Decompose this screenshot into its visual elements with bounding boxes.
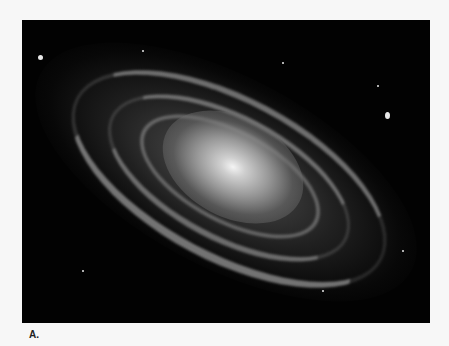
foreground-star — [282, 62, 284, 64]
foreground-star — [402, 250, 404, 252]
foreground-star — [82, 270, 84, 272]
foreground-star — [377, 85, 379, 87]
foreground-star — [142, 50, 144, 52]
galaxy-image — [22, 20, 430, 323]
figure-label: A. — [29, 329, 39, 340]
foreground-star — [38, 55, 43, 60]
foreground-star — [385, 112, 390, 119]
foreground-star — [322, 290, 324, 292]
